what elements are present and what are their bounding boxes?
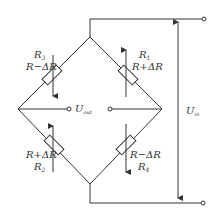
label-output-voltage: Uout bbox=[75, 103, 93, 115]
terminal-out-right bbox=[108, 107, 112, 111]
terminal-top bbox=[202, 17, 206, 21]
label-r1-value: R+ΔR bbox=[131, 61, 163, 72]
label-r4-value: R−ΔR bbox=[129, 149, 161, 160]
label-r4-name: R4 bbox=[137, 161, 150, 173]
label-r2-value: R+ΔR bbox=[25, 149, 57, 160]
label-r3-name: R3 bbox=[33, 49, 46, 61]
terminal-bottom bbox=[201, 201, 205, 205]
label-r3-value: R−ΔR bbox=[25, 61, 57, 72]
terminal-out-left bbox=[67, 107, 71, 111]
label-input-voltage: Uin bbox=[186, 105, 199, 117]
label-r2-name: R2 bbox=[33, 161, 46, 173]
bridge-diagram: R3 R−ΔR R1 R+ΔR R+ΔR R2 R−ΔR R4 Uout Uin bbox=[0, 0, 219, 219]
label-r1-name: R1 bbox=[138, 49, 150, 61]
circuit-svg: R3 R−ΔR R1 R+ΔR R+ΔR R2 R−ΔR R4 Uout Uin bbox=[0, 0, 219, 219]
